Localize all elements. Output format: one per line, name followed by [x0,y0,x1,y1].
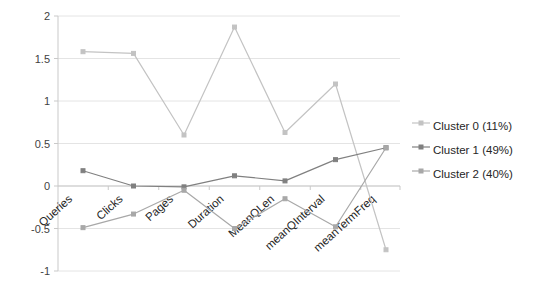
data-point-marker [384,146,388,150]
data-point-marker [81,169,85,173]
data-point-marker [384,248,388,252]
data-point-marker [81,50,85,54]
series-line [83,148,386,229]
data-point-marker [334,225,338,229]
legend-swatch-marker [419,145,423,149]
data-point-marker [132,51,136,55]
x-axis-category-labels: QueriesClicksPagesDurationMeanQLenmeanQI… [36,192,377,253]
chart-canvas: 21.510.50-0.5-1 QueriesClicksPagesDurati… [0,0,546,307]
series-line [83,27,386,250]
x-axis-category-label: MeanQLen [226,193,276,240]
data-point-marker [182,133,186,137]
legend-label: Cluster 1 (49%) [433,144,513,156]
legend-label: Cluster 2 (40%) [433,168,513,180]
data-point-marker [81,226,85,230]
data-point-marker [233,174,237,178]
data-point-marker [283,197,287,201]
y-axis-tick-labels: 21.510.50-0.5-1 [31,10,50,277]
legend-swatch-marker [419,169,423,173]
data-point-marker [334,82,338,86]
y-axis-tick-label: 2 [44,10,50,22]
series-line [83,148,386,187]
data-point-marker [334,158,338,162]
legend-label: Cluster 0 (11%) [433,120,512,132]
legend-swatch-marker [419,121,423,125]
y-axis-tick-label: 0 [44,180,50,192]
y-axis-tick-label: 1 [44,95,50,107]
data-point-marker [182,188,186,192]
y-axis-tick-label: -1 [40,265,50,277]
y-axis-tick-label: 0.5 [35,138,50,150]
data-point-marker [233,25,237,29]
chart-legend: Cluster 0 (11%)Cluster 1 (49%)Cluster 2 … [412,120,513,180]
y-axis-tick-label: 1.5 [35,53,50,65]
data-point-marker [132,212,136,216]
data-point-marker [132,184,136,188]
data-series-group [81,25,388,252]
data-point-marker [283,130,287,134]
data-point-marker [233,227,237,231]
x-axis-category-label: Duration [186,193,226,231]
series-1 [81,146,388,189]
x-axis-category-label: Queries [36,192,74,228]
line-chart: 21.510.50-0.5-1 QueriesClicksPagesDurati… [0,0,546,307]
data-point-marker [283,179,287,183]
